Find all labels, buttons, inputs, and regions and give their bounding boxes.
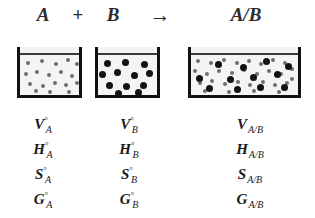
property-labels-a: V°A H°A S°A G°A xyxy=(12,112,74,212)
particle-b xyxy=(104,60,111,67)
particle-b xyxy=(115,90,122,96)
particle-a xyxy=(35,70,39,74)
particle-a xyxy=(54,62,58,66)
particle-b xyxy=(234,86,241,93)
equation-arrow-icon: → xyxy=(140,3,180,27)
particle-a xyxy=(70,74,74,78)
property-symbol: V xyxy=(34,116,44,132)
property-symbol: V xyxy=(120,116,130,132)
particle-b xyxy=(135,89,142,96)
particle-a xyxy=(28,82,32,86)
property-volume-a: V°A xyxy=(12,112,74,137)
property-entropy-a: S°A xyxy=(12,162,74,187)
beaker-a-contents xyxy=(20,47,79,95)
property-subscript: A xyxy=(46,199,52,210)
property-subscript: A xyxy=(46,124,52,135)
property-symbol: G xyxy=(120,191,131,207)
particle-a xyxy=(222,58,226,62)
property-subscript: A xyxy=(45,174,51,185)
particle-a xyxy=(67,90,71,94)
beaker-a xyxy=(17,47,82,98)
particle-a xyxy=(59,70,63,74)
particle-a xyxy=(267,69,271,73)
property-volume-ab: VA/B xyxy=(200,112,300,137)
particle-a xyxy=(26,61,30,65)
particle-a xyxy=(273,83,277,87)
particle-a xyxy=(209,61,213,65)
particle-a xyxy=(217,69,221,73)
particle-a xyxy=(227,90,231,94)
property-subscript: B xyxy=(131,174,137,185)
particle-b xyxy=(281,84,288,91)
beaker-ab-liquid-line xyxy=(191,53,298,55)
particle-a xyxy=(290,77,294,81)
particle-b xyxy=(257,84,264,91)
property-symbol: V xyxy=(237,116,247,132)
particle-a xyxy=(193,69,197,73)
property-gibbs-a: G°A xyxy=(12,187,74,212)
beaker-b xyxy=(95,47,160,98)
property-labels-ab: VA/B HA/B SA/B GA/B xyxy=(200,112,300,212)
particle-b xyxy=(196,75,203,82)
property-symbol: H xyxy=(236,141,248,157)
particle-b xyxy=(227,76,234,83)
property-subscript: A/B xyxy=(248,124,263,135)
particle-b xyxy=(263,58,270,65)
particle-b xyxy=(122,59,129,66)
reaction-equation: A + B → A/B xyxy=(0,3,315,27)
particle-a xyxy=(53,81,57,85)
particle-a xyxy=(75,62,79,66)
particle-a xyxy=(66,58,70,62)
particle-a xyxy=(277,90,281,94)
particle-b xyxy=(215,61,222,68)
particle-b xyxy=(240,64,247,71)
particle-b xyxy=(131,72,138,79)
property-gibbs-b: G°B xyxy=(98,187,160,212)
particle-a xyxy=(235,61,239,65)
particle-b xyxy=(123,83,130,90)
property-enthalpy-ab: HA/B xyxy=(200,137,300,162)
particle-a xyxy=(196,59,200,63)
property-entropy-ab: SA/B xyxy=(200,162,300,187)
particle-a xyxy=(247,59,251,63)
property-entropy-b: S°B xyxy=(98,162,160,187)
property-gibbs-ab: GA/B xyxy=(200,187,300,212)
particle-b xyxy=(285,63,292,70)
property-enthalpy-a: H°A xyxy=(12,137,74,162)
property-volume-b: V°B xyxy=(98,112,160,137)
beaker-b-contents xyxy=(98,47,157,95)
particle-b xyxy=(99,71,106,78)
particle-a xyxy=(47,73,51,77)
equation-product-ab: A/B xyxy=(196,3,296,27)
property-subscript: B xyxy=(133,149,139,160)
particle-a xyxy=(198,81,202,85)
equation-reactant-a: A xyxy=(26,3,60,27)
beaker-ab xyxy=(188,47,301,98)
property-symbol: S xyxy=(238,166,246,182)
beaker-ab-contents xyxy=(191,47,298,95)
particle-b xyxy=(114,69,121,76)
particle-a xyxy=(252,89,256,93)
thermodynamic-mixing-figure: A + B → A/B V°A H°A S°A G°A V°B xyxy=(0,0,315,218)
property-subscript: B xyxy=(132,199,138,210)
property-subscript: A/B xyxy=(247,174,262,185)
particle-a xyxy=(223,82,227,86)
property-symbol: H xyxy=(33,141,45,157)
particle-a xyxy=(75,81,79,85)
property-enthalpy-b: H°B xyxy=(98,137,160,162)
property-symbol: G xyxy=(237,191,248,207)
property-symbol: H xyxy=(119,141,131,157)
particle-a xyxy=(205,72,209,76)
particle-a xyxy=(64,83,68,87)
particle-a xyxy=(248,83,252,87)
beaker-a-liquid-line xyxy=(20,53,79,55)
particle-a xyxy=(24,72,28,76)
property-subscript: A xyxy=(47,149,53,160)
equation-plus-operator: + xyxy=(66,3,90,27)
particle-a xyxy=(34,89,38,93)
particle-b xyxy=(106,82,113,89)
particle-b xyxy=(141,61,148,68)
particle-a xyxy=(271,58,275,62)
particle-b xyxy=(250,74,257,81)
property-subscript: A/B xyxy=(248,199,263,210)
